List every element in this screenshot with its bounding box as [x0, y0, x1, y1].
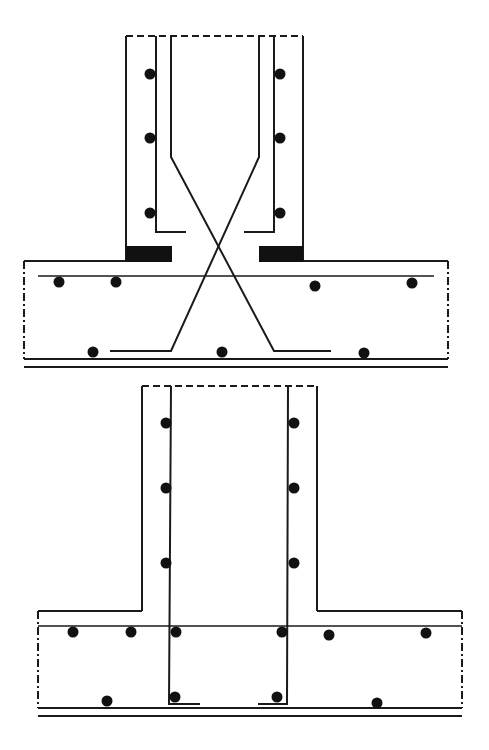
bearing-block-left — [126, 246, 172, 262]
column-bar-dots-top — [145, 69, 286, 219]
diagram-canvas — [0, 0, 489, 750]
column-bars-top — [156, 36, 274, 232]
footing-bar-dots-top — [54, 277, 418, 359]
detail-bottom — [38, 386, 462, 716]
bearing-block-right — [259, 246, 303, 262]
starter-bar-left — [169, 386, 200, 704]
diagonal-bar-right-to-left — [110, 36, 259, 351]
diagonal-bar-left-to-right — [171, 36, 331, 351]
footing-bar-dots-bottom — [68, 627, 432, 709]
detail-top — [24, 36, 448, 367]
column-bar-dots-bottom — [161, 418, 300, 569]
diagonal-starter-bars — [110, 36, 331, 351]
starter-bars-bottom — [169, 386, 288, 704]
starter-bar-right — [258, 386, 288, 704]
